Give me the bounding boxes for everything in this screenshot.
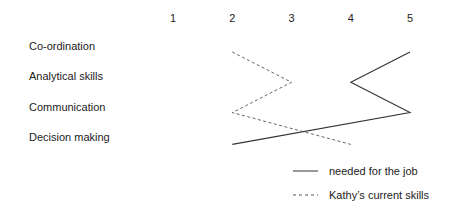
category-label: Communication — [29, 101, 105, 113]
category-labels: Co-ordinationAnalytical skillsCommunicat… — [29, 40, 110, 143]
legend: needed for the jobKathy’s current skills — [293, 165, 430, 201]
category-label: Decision making — [29, 131, 110, 143]
category-label: Analytical skills — [29, 70, 103, 82]
series-line-current-skills — [232, 52, 350, 144]
skills-profile-chart: 12345 Co-ordinationAnalytical skillsComm… — [0, 0, 455, 209]
legend-label: Kathy’s current skills — [329, 189, 430, 201]
x-tick-labels: 12345 — [170, 12, 413, 24]
x-tick-label: 4 — [348, 12, 354, 24]
legend-label: needed for the job — [329, 165, 418, 177]
category-label: Co-ordination — [29, 40, 95, 52]
series-lines — [232, 52, 410, 144]
x-tick-label: 2 — [229, 12, 235, 24]
x-tick-label: 1 — [170, 12, 176, 24]
x-tick-label: 5 — [407, 12, 413, 24]
x-tick-label: 3 — [288, 12, 294, 24]
